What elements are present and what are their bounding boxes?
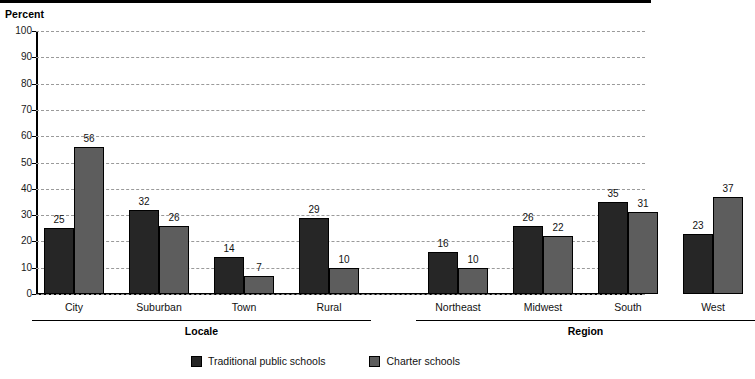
bar (129, 210, 159, 294)
gridline (36, 84, 645, 85)
category-label: Northeast (435, 302, 481, 313)
gridline (36, 294, 645, 295)
legend-item: Traditional public schools (191, 355, 326, 367)
bar (428, 252, 458, 294)
gridline (36, 31, 645, 32)
bar (299, 218, 329, 294)
bar-value-label: 25 (53, 215, 64, 225)
category-label: Rural (316, 302, 341, 313)
group-rule (416, 320, 755, 321)
gridline (36, 110, 645, 111)
legend-label: Traditional public schools (208, 355, 326, 367)
category-label: Midwest (524, 302, 563, 313)
y-tick-label: 20 (4, 236, 32, 246)
bar-value-label: 16 (437, 239, 448, 249)
bar-value-label: 35 (607, 189, 618, 199)
legend-swatch-icon (369, 356, 380, 367)
group-rule (32, 320, 371, 321)
y-tick-label: 70 (4, 105, 32, 115)
bar-value-label: 23 (692, 221, 703, 231)
gridline (36, 57, 645, 58)
chart-legend: Traditional public schoolsCharter school… (0, 351, 651, 371)
legend-item: Charter schools (369, 355, 460, 367)
y-tick-label: 10 (4, 263, 32, 273)
y-tick-label: 50 (4, 158, 32, 168)
bar-value-label: 26 (168, 213, 179, 223)
y-tick-label: 100 (4, 26, 32, 36)
y-tick-label: 0 (4, 289, 32, 299)
bar (329, 268, 359, 294)
gridline (36, 163, 645, 164)
bar-value-label: 26 (522, 213, 533, 223)
category-label: West (701, 302, 725, 313)
bar-value-label: 10 (467, 255, 478, 265)
bar-value-label: 29 (308, 205, 319, 215)
legend-swatch-icon (191, 356, 202, 367)
bar-value-label: 32 (138, 197, 149, 207)
y-axis-tick-labels: 1009080706050403020100 (0, 0, 32, 379)
category-label: Town (232, 302, 257, 313)
gridline (36, 189, 645, 190)
top-border-rule (0, 0, 651, 3)
y-tick-label: 80 (4, 79, 32, 89)
bar (713, 197, 743, 294)
y-tick-label: 40 (4, 184, 32, 194)
category-label: Suburban (136, 302, 182, 313)
category-label: South (614, 302, 641, 313)
legend-label: Charter schools (386, 355, 460, 367)
bar (543, 236, 573, 294)
group-label: Region (568, 325, 604, 337)
group-label: Locale (185, 325, 218, 337)
bar-value-label: 14 (223, 244, 234, 254)
bar-value-label: 37 (722, 184, 733, 194)
bar (244, 276, 274, 294)
y-tick-label: 90 (4, 52, 32, 62)
bar (458, 268, 488, 294)
bar-value-label: 10 (338, 255, 349, 265)
bar-value-label: 22 (552, 223, 563, 233)
gridline (36, 215, 645, 216)
y-tick-label: 60 (4, 131, 32, 141)
bar (598, 202, 628, 294)
bar (628, 212, 658, 294)
y-tick-label: 30 (4, 210, 32, 220)
bar-value-label: 31 (637, 199, 648, 209)
category-label: City (65, 302, 83, 313)
bar (159, 226, 189, 294)
bar (74, 147, 104, 294)
bar-value-label: 56 (83, 134, 94, 144)
gridline (36, 136, 645, 137)
bar-value-label: 7 (256, 263, 262, 273)
bar (513, 226, 543, 294)
bar (683, 234, 713, 294)
bar (214, 257, 244, 294)
bar (44, 228, 74, 294)
plot-area: 2556322614729101610262235312337 (36, 31, 645, 294)
